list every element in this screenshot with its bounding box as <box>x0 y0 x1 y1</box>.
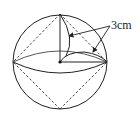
arrow-1 <box>69 26 110 36</box>
radius-label: 3cm <box>111 19 132 31</box>
quarter-arc-vertical <box>60 14 70 56</box>
equator-front <box>13 62 107 73</box>
center-dot <box>58 60 61 63</box>
